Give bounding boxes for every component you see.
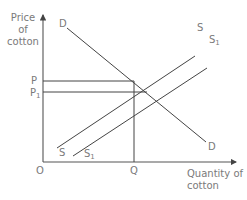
- supply-s1-bottom-label: S1: [84, 148, 95, 161]
- supply-curve-s: [57, 56, 195, 148]
- y-axis-label-line3: cotton: [7, 36, 39, 47]
- demand-curve: [67, 28, 206, 142]
- origin-label: O: [36, 165, 44, 176]
- y-axis-label-line2: of: [18, 24, 28, 35]
- x-axis-label-line2: cotton: [187, 180, 219, 191]
- demand-top-label: D: [59, 18, 67, 29]
- supply-s-bottom-label: S: [59, 147, 65, 158]
- x-axis-label-line1: Quantity of: [187, 168, 244, 179]
- quantity-q-label: Q: [130, 165, 138, 176]
- supply-s1-top-label: S1: [209, 34, 220, 47]
- supply-s-top-label: S: [197, 22, 203, 33]
- demand-bottom-label: D: [208, 141, 216, 152]
- price-p-label: P: [31, 75, 37, 86]
- price-p1-label: P1: [30, 87, 41, 100]
- supply-demand-diagram: Price of cotton Quantity of cotton O P P…: [0, 0, 247, 200]
- y-axis-label-line1: Price: [11, 12, 35, 23]
